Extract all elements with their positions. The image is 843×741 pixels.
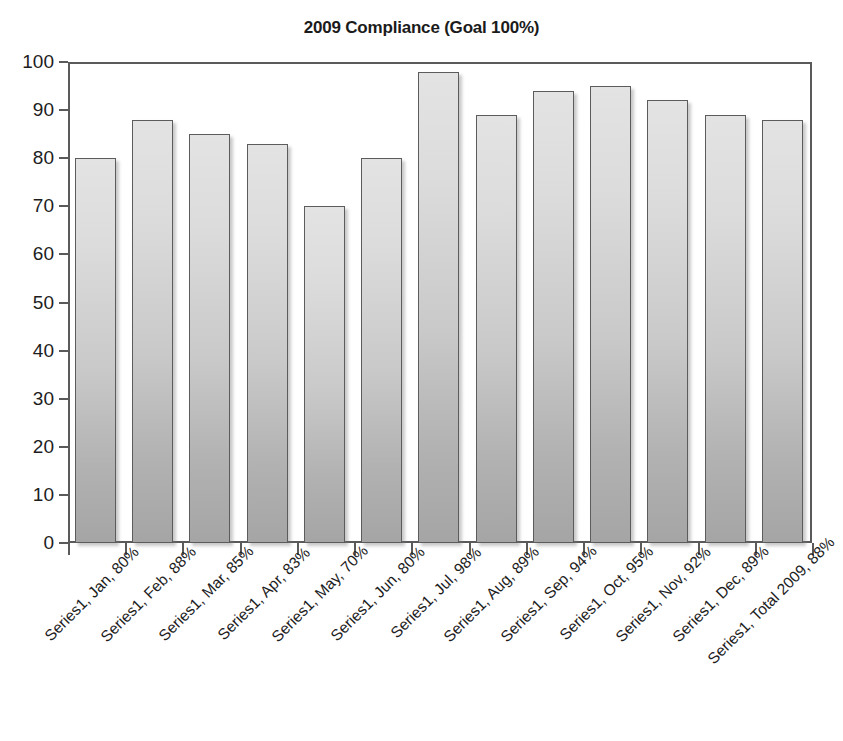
bar-slot: [640, 62, 697, 543]
y-axis-tick-label: 10: [33, 484, 54, 506]
y-axis-tick-label: 0: [43, 532, 54, 554]
bar[interactable]: [189, 134, 230, 543]
y-axis-tick-label: 40: [33, 340, 54, 362]
bar-slot: [583, 62, 640, 543]
x-axis-label: Series1, May, 70%: [268, 542, 372, 646]
x-axis-tick-mark: [68, 543, 70, 555]
y-axis-tick-label: 50: [33, 292, 54, 314]
y-axis: 1009080706050403020100: [0, 62, 68, 543]
y-axis-tick-mark: [59, 494, 68, 496]
bar-slot: [469, 62, 526, 543]
x-axis-label: Series1, Aug, 89%: [440, 543, 543, 646]
bar-slot: [698, 62, 755, 543]
bar[interactable]: [476, 115, 517, 543]
bar[interactable]: [705, 115, 746, 543]
y-axis-tick-mark: [59, 205, 68, 207]
bar-slot: [354, 62, 411, 543]
bar-slot: [297, 62, 354, 543]
y-axis-tick-mark: [59, 350, 68, 352]
y-axis-tick-label: 20: [33, 436, 54, 458]
y-axis-tick-mark: [59, 109, 68, 111]
y-axis-tick-label: 70: [33, 195, 54, 217]
bar[interactable]: [647, 100, 688, 543]
bar[interactable]: [762, 120, 803, 543]
x-axis-label: Series1, Sep, 94%: [497, 542, 601, 646]
y-axis-tick-label: 90: [33, 99, 54, 121]
y-axis-tick-mark: [59, 157, 68, 159]
chart-title: 2009 Compliance (Goal 100%): [0, 18, 843, 38]
bar[interactable]: [132, 120, 173, 543]
bar[interactable]: [247, 144, 288, 543]
y-axis-tick-mark: [59, 446, 68, 448]
x-axis-label: Series1, Feb, 88%: [97, 543, 200, 646]
y-axis-tick-label: 30: [33, 388, 54, 410]
bar[interactable]: [361, 158, 402, 543]
x-axis-label: Series1, Jan, 80%: [41, 543, 143, 645]
bars-layer: [68, 62, 812, 543]
y-axis-tick-mark: [59, 542, 68, 544]
bar-chart: 2009 Compliance (Goal 100%) 100908070605…: [0, 0, 843, 741]
y-axis-tick-label: 100: [22, 51, 54, 73]
bar-slot: [240, 62, 297, 543]
y-axis-tick-mark: [59, 398, 68, 400]
bar[interactable]: [418, 72, 459, 543]
bar-slot: [125, 62, 182, 543]
bar-slot: [755, 62, 812, 543]
y-axis-tick-label: 80: [33, 147, 54, 169]
bar[interactable]: [304, 206, 345, 543]
bar-slot: [68, 62, 125, 543]
x-axis-label: Series1, Dec, 89%: [669, 542, 773, 646]
y-axis-tick-mark: [59, 253, 68, 255]
x-axis-labels: Series1, Jan, 80%Series1, Feb, 88%Series…: [0, 556, 843, 741]
bar-slot: [526, 62, 583, 543]
bar[interactable]: [533, 91, 574, 543]
y-axis-tick-mark: [59, 302, 68, 304]
y-axis-tick-mark: [59, 61, 68, 63]
bar-slot: [411, 62, 468, 543]
bar[interactable]: [590, 86, 631, 543]
bar[interactable]: [75, 158, 116, 543]
y-axis-tick-label: 60: [33, 243, 54, 265]
bar-slot: [182, 62, 239, 543]
